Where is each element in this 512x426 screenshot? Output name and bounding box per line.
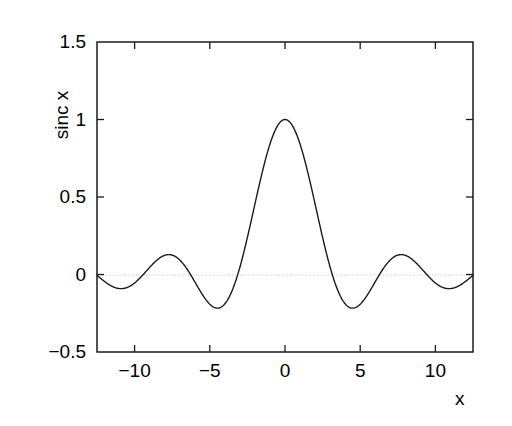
x-tick-label: 0 (280, 360, 291, 382)
axes-frame (97, 42, 473, 352)
x-axis-label: x (455, 388, 465, 410)
y-axis-label: sinc x (51, 45, 73, 185)
x-tick-label: 5 (355, 360, 366, 382)
y-tick-label: 0.5 (18, 186, 86, 208)
x-tick-label: −10 (118, 360, 150, 382)
y-tick-label: −0.5 (18, 341, 86, 363)
sinc-curve (97, 120, 473, 309)
x-tick-label: 10 (425, 360, 446, 382)
sinc-function-figure: −0.500.511.5 −10−50510 sinc x x (0, 0, 512, 426)
x-tick-label: −5 (199, 360, 221, 382)
tick-marks (97, 42, 473, 352)
y-tick-label: 0 (18, 264, 86, 286)
